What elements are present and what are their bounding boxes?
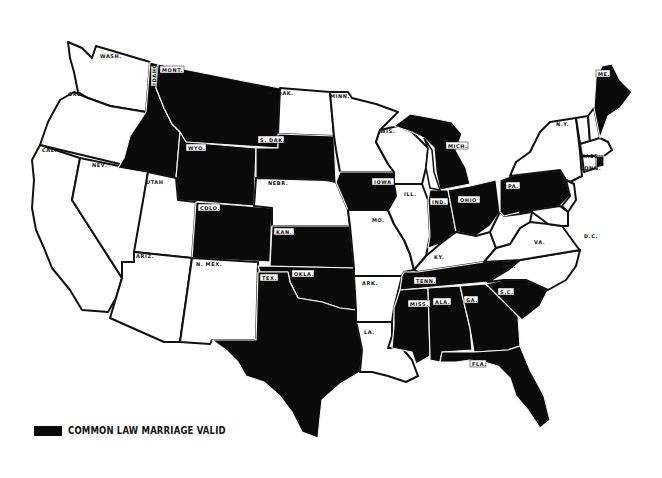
- label-ala: ALA.: [435, 299, 450, 305]
- label-sdak: S. DAK.: [260, 137, 285, 143]
- label-ark: ARK.: [362, 280, 378, 286]
- label-ind: IND.: [432, 199, 447, 205]
- label-cal: CAL.: [42, 147, 57, 153]
- label-ndak: N. DAK.: [268, 90, 294, 96]
- label-ga: GA.: [466, 297, 478, 303]
- label-okla: OKLA.: [294, 271, 314, 277]
- label-wyo: WYO.: [188, 145, 205, 151]
- label-ohio: OHIO: [460, 197, 477, 203]
- label-wash: WASH.: [100, 53, 122, 59]
- label-utah: UTAH: [146, 179, 164, 185]
- label-va: VA.: [534, 239, 545, 245]
- label-idaho: IDAHO: [151, 64, 157, 85]
- label-colo: COLO.: [200, 205, 220, 211]
- legend-swatch: [34, 426, 62, 436]
- label-ariz: ARIZ.: [136, 253, 154, 259]
- label-nebr: NEBR.: [268, 180, 288, 186]
- label-minn: MINN.: [330, 93, 350, 99]
- label-fla: FLA.: [472, 361, 487, 367]
- label-kan: KAN.: [276, 229, 292, 235]
- label-la: LA.: [364, 329, 375, 335]
- label-nc: N.C.: [502, 263, 516, 269]
- label-mo: MO.: [372, 217, 385, 223]
- label-me: ME.: [598, 71, 610, 77]
- label-mont: MONT.: [162, 67, 183, 73]
- label-wis: WIS.: [380, 128, 395, 134]
- label-tenn: TENN.: [416, 278, 436, 284]
- us-map: WASH. ORE. CAL. NEV. UTAH ARIZ. N. MEX. …: [0, 0, 662, 478]
- state-florida[interactable]: [440, 346, 550, 428]
- label-mass: MASS.: [580, 153, 601, 159]
- label-ore: ORE.: [68, 91, 84, 97]
- label-ky: KY.: [434, 254, 444, 260]
- label-dc: D.C.: [584, 233, 598, 239]
- state-arizona[interactable]: [110, 252, 192, 342]
- state-new-mexico[interactable]: [180, 258, 258, 344]
- label-conn: CONN.: [580, 165, 601, 171]
- state-new-york[interactable]: [510, 118, 582, 182]
- label-mich: MICH.: [448, 143, 468, 149]
- legend: COMMON LAW MARRIAGE VALID: [34, 425, 254, 436]
- label-ill: ILL.: [404, 191, 417, 197]
- label-nev: NEV.: [92, 162, 107, 168]
- label-pa: PA.: [508, 183, 519, 189]
- label-tex: TEX.: [262, 275, 277, 281]
- label-nmex: N. MEX.: [196, 261, 222, 267]
- legend-label: COMMON LAW MARRIAGE VALID: [68, 425, 226, 436]
- label-ny: N.Y.: [556, 121, 569, 127]
- label-iowa: IOWA: [374, 179, 392, 185]
- label-sc: S.C.: [500, 289, 513, 295]
- label-miss: MISS.: [410, 301, 429, 307]
